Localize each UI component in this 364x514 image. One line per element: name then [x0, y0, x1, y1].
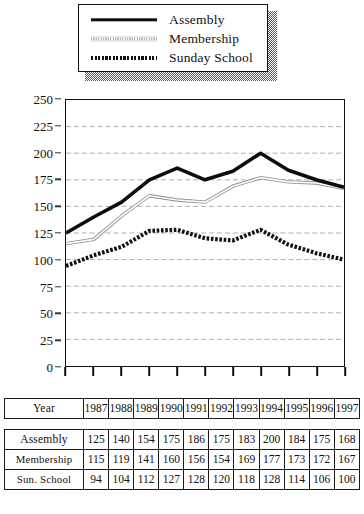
table-row: Assembly12514015417518617518320018417516…: [5, 430, 360, 450]
data-cell: 172: [309, 450, 334, 470]
legend-label-membership: Membership: [169, 32, 239, 46]
year-cell: 1987: [84, 399, 109, 419]
year-cell: 1990: [159, 399, 184, 419]
y-axis-tick-mark: [55, 259, 61, 260]
y-axis-tick-label: 125: [34, 227, 54, 240]
y-axis-tick-mark: [55, 232, 61, 233]
table-row: Membership115119141160156154169177173172…: [5, 450, 360, 470]
data-cell: 128: [259, 470, 284, 490]
year-cell: 1991: [184, 399, 209, 419]
year-header-table: Year 19871988198919901991199219931994199…: [4, 398, 360, 419]
legend-line-sample-assembly-icon: [91, 13, 157, 27]
legend-line-sample-sunday-school-icon: [91, 51, 157, 65]
line-chart: 0255075100125150175200225250: [0, 92, 364, 388]
data-cell: 119: [109, 450, 134, 470]
x-axis-tick-mark: [232, 367, 234, 376]
legend-label-sunday-school: Sunday School: [169, 51, 253, 65]
data-cell: 183: [234, 430, 259, 450]
data-cell: 168: [334, 430, 359, 450]
data-cell: 140: [109, 430, 134, 450]
x-axis-tick-mark: [148, 367, 150, 376]
y-axis-tick-mark: [55, 125, 61, 126]
y-axis-tick-label: 25: [40, 334, 53, 347]
x-axis-tick-mark: [316, 367, 318, 376]
x-axis-tick-mark: [288, 367, 290, 376]
y-axis-tick-mark: [55, 179, 61, 180]
data-cell: 125: [84, 430, 109, 450]
y-axis-tick-label: 0: [47, 361, 54, 374]
y-axis-tick-label: 50: [40, 307, 53, 320]
data-cell: 173: [284, 450, 309, 470]
year-cell: 1989: [134, 399, 159, 419]
data-cell: 156: [184, 450, 209, 470]
y-axis-tick-labels: 0255075100125150175200225250: [0, 99, 61, 367]
y-axis-tick-mark: [55, 366, 61, 367]
x-axis-ticks: [65, 367, 345, 377]
data-cell: 154: [134, 430, 159, 450]
data-cell: 128: [184, 470, 209, 490]
legend-entry-assembly: Assembly: [79, 10, 267, 29]
x-axis-tick-mark: [64, 367, 66, 376]
data-cell: 175: [159, 430, 184, 450]
year-cell: 1995: [284, 399, 309, 419]
x-axis-tick-mark: [204, 367, 206, 376]
data-cell: 186: [184, 430, 209, 450]
data-cell: 114: [284, 470, 309, 490]
y-axis-tick-mark: [55, 152, 61, 153]
data-table: Assembly12514015417518617518320018417516…: [4, 429, 360, 490]
data-cell: 175: [309, 430, 334, 450]
x-axis-tick-mark: [176, 367, 178, 376]
year-cell: 1997: [334, 399, 359, 419]
series-line-assembly: [66, 153, 344, 233]
row-label: Assembly: [5, 430, 84, 450]
data-cell: 169: [234, 450, 259, 470]
data-cell: 175: [209, 430, 234, 450]
data-cell: 120: [209, 470, 234, 490]
x-axis-tick-mark: [120, 367, 122, 376]
data-cell: 127: [159, 470, 184, 490]
year-cell: 1994: [259, 399, 284, 419]
x-axis-tick-mark: [92, 367, 94, 376]
data-cell: 106: [309, 470, 334, 490]
y-axis-tick-label: 150: [34, 200, 54, 213]
year-cell: 1993: [234, 399, 259, 419]
legend-entry-sunday-school: Sunday School: [79, 48, 267, 67]
x-axis-tick-mark: [260, 367, 262, 376]
data-cell: 184: [284, 430, 309, 450]
y-axis-tick-mark: [55, 205, 61, 206]
data-cell: 104: [109, 470, 134, 490]
row-label: Membership: [5, 450, 84, 470]
table-row: Sun. School94104112127128120118128114106…: [5, 470, 360, 490]
y-axis-tick-label: 200: [34, 146, 54, 159]
data-cell: 100: [334, 470, 359, 490]
data-cell: 154: [209, 450, 234, 470]
y-axis-tick-label: 250: [34, 93, 54, 106]
y-axis-tick-mark: [55, 313, 61, 314]
legend-entry-membership: Membership: [79, 29, 267, 48]
year-cell: 1988: [109, 399, 134, 419]
data-cell: 177: [259, 450, 284, 470]
y-axis-tick-label: 175: [34, 173, 54, 186]
y-axis-tick-label: 225: [34, 119, 54, 132]
data-cell: 118: [234, 470, 259, 490]
data-cell: 115: [84, 450, 109, 470]
y-axis-tick-mark: [55, 339, 61, 340]
table-row-years: Year 19871988198919901991199219931994199…: [5, 399, 360, 419]
y-axis-tick-mark: [55, 286, 61, 287]
legend-line-sample-membership-icon: [91, 32, 157, 46]
data-cell: 160: [159, 450, 184, 470]
year-cell: 1992: [209, 399, 234, 419]
data-cell: 112: [134, 470, 159, 490]
data-cell: 141: [134, 450, 159, 470]
data-cell: 200: [259, 430, 284, 450]
data-series-lines: [66, 100, 344, 366]
chart-legend: Assembly Membership Sunday School: [78, 4, 270, 74]
x-axis-tick-mark: [344, 367, 346, 376]
y-axis-tick-mark: [55, 98, 61, 99]
series-line-sunday-school: [66, 230, 344, 266]
row-label: Sun. School: [5, 470, 84, 490]
y-axis-tick-label: 100: [34, 253, 54, 266]
data-cell: 167: [334, 450, 359, 470]
y-axis-tick-label: 75: [40, 280, 53, 293]
legend-label-assembly: Assembly: [169, 13, 225, 27]
